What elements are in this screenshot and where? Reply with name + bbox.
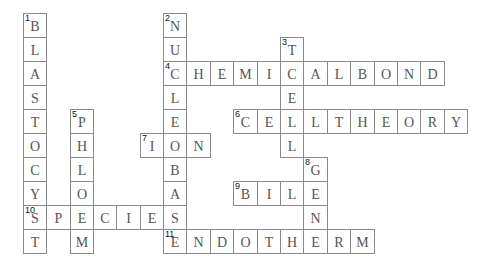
cell-letter: G [304, 163, 327, 179]
crossword-cell[interactable]: 4C [163, 61, 187, 86]
crossword-cell[interactable]: D [210, 229, 234, 254]
crossword-cell[interactable]: 11E [163, 229, 187, 254]
crossword-cell[interactable]: L [70, 157, 94, 182]
cell-letter: N [304, 211, 327, 227]
crossword-cell[interactable]: E [303, 181, 328, 206]
crossword-cell[interactable]: O [233, 229, 258, 254]
crossword-cell[interactable]: B [350, 61, 375, 86]
cell-letter: I [117, 211, 140, 227]
cell-letter: T [258, 235, 280, 251]
cell-letter: H [187, 67, 210, 83]
crossword-cell[interactable]: E [210, 61, 234, 86]
crossword-cell[interactable]: 8G [303, 157, 328, 182]
crossword-cell[interactable]: 9B [233, 181, 258, 206]
crossword-cell[interactable]: L [280, 109, 304, 134]
cell-letter: I [258, 187, 280, 203]
cell-letter: B [164, 163, 186, 179]
crossword-cell[interactable]: C [280, 61, 304, 86]
crossword-cell[interactable]: O [70, 181, 94, 206]
crossword-cell[interactable]: S [163, 205, 187, 230]
crossword-cell[interactable]: C [23, 157, 47, 182]
cell-letter: C [234, 115, 257, 131]
cell-letter: M [71, 235, 93, 251]
cell-letter: L [24, 43, 46, 59]
cell-letter: S [164, 211, 186, 227]
cell-letter: N [187, 139, 210, 155]
crossword-cell[interactable]: L [280, 181, 304, 206]
crossword-cell[interactable]: A [23, 61, 47, 86]
crossword-cell[interactable]: T [257, 229, 281, 254]
cell-letter: E [71, 211, 93, 227]
cell-letter: I [258, 67, 280, 83]
crossword-cell[interactable]: M [233, 61, 258, 86]
crossword-cell[interactable]: E [70, 205, 94, 230]
crossword-cell[interactable]: O [163, 133, 187, 158]
cell-letter: O [164, 139, 186, 155]
cell-letter: L [304, 115, 327, 131]
crossword-cell[interactable]: U [163, 37, 187, 62]
crossword-cell[interactable]: N [186, 229, 211, 254]
crossword-cell[interactable]: H [280, 229, 304, 254]
crossword-cell[interactable]: E [140, 205, 164, 230]
crossword-cell[interactable]: T [23, 109, 47, 134]
crossword-cell[interactable]: A [303, 61, 328, 86]
crossword-cell[interactable]: O [374, 61, 398, 86]
cell-letter: Y [24, 187, 46, 203]
crossword-cell[interactable]: R [327, 229, 351, 254]
crossword-cell[interactable]: N [186, 133, 211, 158]
crossword-cell[interactable]: L [303, 109, 328, 134]
cell-letter: I [141, 139, 163, 155]
cell-letter: B [234, 187, 257, 203]
crossword-cell[interactable]: H [350, 109, 375, 134]
crossword-cell[interactable]: 10S [23, 205, 47, 230]
cell-letter: C [281, 67, 303, 83]
crossword-cell[interactable]: T [23, 229, 47, 254]
cell-letter: R [421, 115, 444, 131]
cell-letter: T [328, 115, 350, 131]
crossword-cell[interactable]: S [23, 85, 47, 110]
cell-letter: B [24, 19, 46, 35]
crossword-cell[interactable]: L [327, 61, 351, 86]
crossword-cell[interactable]: O [23, 133, 47, 158]
crossword-cell[interactable]: C [93, 205, 117, 230]
cell-letter: E [304, 235, 327, 251]
crossword-cell[interactable]: O [397, 109, 421, 134]
crossword-cell[interactable]: N [397, 61, 421, 86]
cell-letter: E [164, 115, 186, 131]
crossword-cell[interactable]: 1B [23, 13, 47, 38]
crossword-cell[interactable]: B [163, 157, 187, 182]
crossword-cell[interactable]: 6C [233, 109, 258, 134]
crossword-cell[interactable]: P [46, 205, 71, 230]
crossword-cell[interactable]: I [257, 181, 281, 206]
crossword-cell[interactable]: A [163, 181, 187, 206]
crossword-cell[interactable]: E [163, 109, 187, 134]
cell-letter: S [24, 91, 46, 107]
crossword-cell[interactable]: Y [23, 181, 47, 206]
crossword-cell[interactable]: E [303, 229, 328, 254]
crossword-cell[interactable]: T [327, 109, 351, 134]
crossword-cell[interactable]: H [70, 133, 94, 158]
crossword-cell[interactable]: H [186, 61, 211, 86]
crossword-cell[interactable]: M [70, 229, 94, 254]
crossword-cell[interactable]: D [420, 61, 445, 86]
crossword-cell[interactable]: 7I [140, 133, 164, 158]
crossword-cell[interactable]: I [116, 205, 141, 230]
crossword-cell[interactable]: R [420, 109, 445, 134]
crossword-cell[interactable]: I [257, 61, 281, 86]
crossword-cell[interactable]: L [23, 37, 47, 62]
crossword-cell[interactable]: L [163, 85, 187, 110]
crossword-cell[interactable]: E [257, 109, 281, 134]
cell-letter: C [24, 163, 46, 179]
crossword-cell[interactable]: L [280, 133, 304, 158]
cell-letter: A [24, 67, 46, 83]
cell-letter: O [71, 187, 93, 203]
crossword-cell[interactable]: 3T [280, 37, 304, 62]
crossword-cell[interactable]: E [280, 85, 304, 110]
cell-letter: E [211, 67, 233, 83]
crossword-cell[interactable]: M [350, 229, 375, 254]
crossword-cell[interactable]: 5P [70, 109, 94, 134]
crossword-cell[interactable]: N [303, 205, 328, 230]
crossword-cell[interactable]: Y [444, 109, 468, 134]
crossword-cell[interactable]: 2N [163, 13, 187, 38]
crossword-cell[interactable]: E [374, 109, 398, 134]
